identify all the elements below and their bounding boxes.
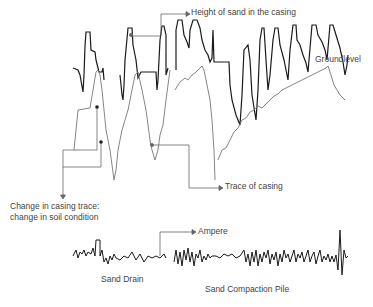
casing-segment: [218, 66, 345, 160]
casing-segment: [74, 70, 170, 180]
arrowhead-ampere: [192, 230, 196, 235]
casing-segment: [175, 66, 215, 180]
leader-change-soil-2: [63, 142, 101, 167]
marker-dot: [150, 143, 153, 146]
ampere-segment-sand-drain: [73, 240, 166, 264]
leader-height-of-sand: [131, 14, 186, 36]
label-change-line2: change in soil condition: [10, 213, 98, 223]
marker-dot: [95, 105, 98, 108]
label-trace-of-casing: Trace of casing: [225, 182, 283, 192]
arrowhead-height-of-sand: [186, 12, 190, 17]
marker-dot: [99, 140, 102, 143]
leader-trace-of-casing: [152, 145, 219, 188]
label-change-line1: Change in casing trace:: [10, 202, 99, 212]
casing-trace: [74, 66, 345, 180]
label-height-of-sand: Height of sand in the casing: [191, 8, 296, 18]
label-ampere: Ampere: [198, 227, 228, 237]
label-sand-compaction-pile: Sand Compaction Pile: [205, 285, 289, 295]
sand-height-segment: [120, 26, 168, 100]
label-ground-level: Groundlevel: [315, 55, 361, 65]
leader-change-soil-1: [63, 107, 97, 150]
marker-dot: [129, 33, 132, 36]
sand-height-segment: [176, 20, 348, 125]
label-sand-drain: Sand Drain: [101, 275, 144, 285]
sand-height-segment: [73, 32, 104, 92]
diagram-canvas: [0, 0, 373, 307]
arrowhead-change-soil: [61, 195, 66, 199]
arrowhead-trace-of-casing: [219, 186, 223, 191]
